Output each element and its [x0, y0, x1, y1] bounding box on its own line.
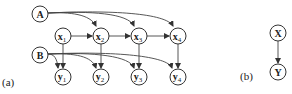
node-y2: y2 [93, 69, 109, 85]
panel-label-a: (a) [2, 76, 15, 89]
edge-A-x2 [48, 13, 96, 26]
edge-B-y2 [48, 54, 96, 68]
edge-B-y1 [48, 54, 58, 68]
edge-A-x4 [48, 12, 173, 26]
svg-text:B: B [37, 50, 44, 61]
node-x2: x2 [93, 28, 109, 44]
panel-label-b: (b) [240, 70, 253, 83]
node-B: B [32, 47, 48, 63]
node-x3: x3 [131, 28, 147, 44]
node-y4: y4 [170, 69, 186, 85]
edge-A-x3 [48, 12, 134, 26]
node-A: A [32, 6, 48, 22]
node-y3: y3 [131, 69, 147, 85]
graphical-model-diagram: A B x1 x2 x3 x4 y1 y2 y3 y4 X Y [0, 0, 292, 94]
node-X: X [270, 25, 286, 41]
svg-text:A: A [36, 9, 44, 20]
node-y1: y1 [55, 69, 71, 85]
node-Y: Y [270, 64, 286, 80]
svg-text:Y: Y [274, 67, 282, 78]
node-x1: x1 [55, 28, 71, 44]
node-x4: x4 [170, 28, 186, 44]
svg-text:X: X [274, 28, 282, 39]
edge-B-y4 [48, 53, 172, 68]
